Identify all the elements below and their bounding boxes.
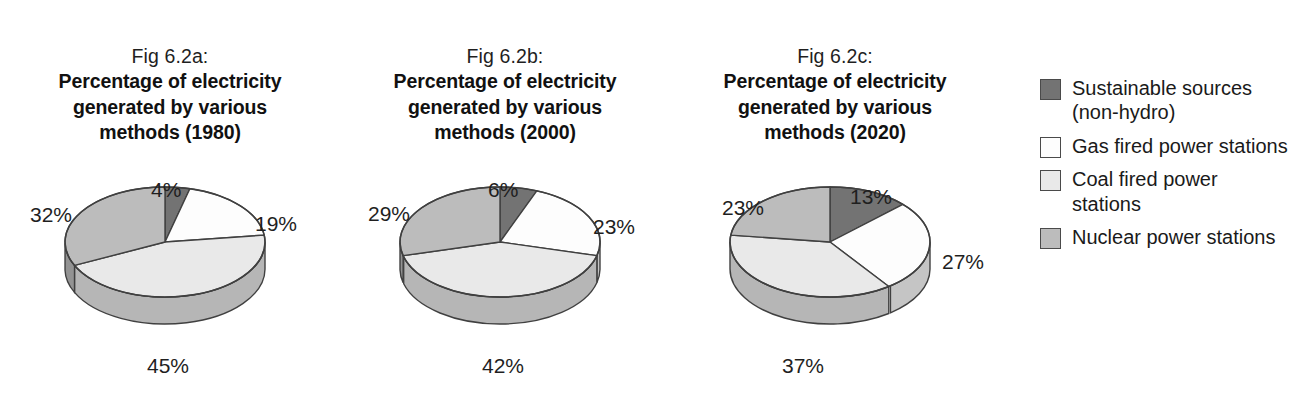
- legend-swatch-icon: [1040, 137, 1061, 158]
- legend-swatch-icon: [1040, 79, 1061, 100]
- chart-legend: Sustainable sources (non-hydro) Gas fire…: [1000, 0, 1298, 409]
- slice-label-right: 23%: [593, 215, 635, 239]
- legend-item-label: Sustainable sources (non-hydro): [1072, 76, 1290, 125]
- chart-panel-1980: Fig 6.2a: Percentage of electricity gene…: [0, 0, 340, 409]
- legend-item-label: Gas fired power stations: [1072, 134, 1288, 158]
- slice-label-top: 13%: [850, 185, 892, 209]
- chart-caption-2000: Fig 6.2b: Percentage of electricity gene…: [340, 44, 670, 145]
- legend-swatch-icon: [1040, 170, 1061, 191]
- chart-caption-1980: Fig 6.2a: Percentage of electricity gene…: [0, 44, 340, 145]
- slice-label-right: 27%: [942, 250, 984, 274]
- figure-root: Fig 6.2a: Percentage of electricity gene…: [0, 0, 1298, 409]
- legend-items: Sustainable sources (non-hydro) Gas fire…: [1040, 76, 1290, 258]
- chart-title: Percentage of electricity generated by v…: [0, 69, 340, 145]
- slice-label-bottom: 45%: [147, 354, 189, 378]
- slice-label-top: 4%: [151, 178, 181, 202]
- legend-item-sustainable[interactable]: Sustainable sources (non-hydro): [1040, 76, 1290, 125]
- legend-item-coal[interactable]: Coal fired power stations: [1040, 167, 1290, 216]
- legend-item-gas[interactable]: Gas fired power stations: [1040, 134, 1290, 158]
- legend-item-nuclear[interactable]: Nuclear power stations: [1040, 225, 1290, 249]
- legend-swatch-icon: [1040, 228, 1061, 249]
- legend-item-label: Nuclear power stations: [1072, 225, 1275, 249]
- chart-panel-2020: Fig 6.2c: Percentage of electricity gene…: [670, 0, 1000, 409]
- slice-label-left: 32%: [30, 203, 72, 227]
- chart-caption-2020: Fig 6.2c: Percentage of electricity gene…: [670, 44, 1000, 145]
- slice-label-bottom: 37%: [782, 354, 824, 378]
- chart-panel-2000: Fig 6.2b: Percentage of electricity gene…: [340, 0, 670, 409]
- chart-figure-number: Fig 6.2a:: [0, 44, 340, 69]
- chart-title: Percentage of electricity generated by v…: [670, 69, 1000, 145]
- pie-chart-2020: [670, 170, 1000, 385]
- chart-title: Percentage of electricity generated by v…: [340, 69, 670, 145]
- chart-figure-number: Fig 6.2c:: [670, 44, 1000, 69]
- chart-figure-number: Fig 6.2b:: [340, 44, 670, 69]
- slice-label-left: 23%: [722, 196, 764, 220]
- slice-label-top: 6%: [488, 178, 518, 202]
- slice-label-right: 19%: [255, 212, 297, 236]
- slice-label-left: 29%: [368, 202, 410, 226]
- legend-item-label: Coal fired power stations: [1072, 167, 1290, 216]
- slice-label-bottom: 42%: [482, 354, 524, 378]
